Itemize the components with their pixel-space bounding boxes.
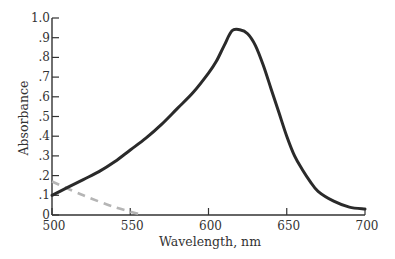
x-axis: 500550600650700 (43, 208, 379, 233)
y-tick-label: .8 (39, 50, 50, 64)
absorbance-spectrum-line (52, 29, 365, 209)
y-tick-label: .6 (39, 90, 50, 104)
baseline-dashed-line (52, 182, 143, 215)
x-axis-label: Wavelength, nm (159, 234, 261, 249)
y-tick-label: .9 (39, 31, 50, 45)
y-tick-label: .5 (39, 110, 50, 124)
absorbance-chart: 0.1.2.3.4.5.6.7.8.91.0 500550600650700 A… (0, 0, 395, 259)
y-tick-label: 1.0 (31, 11, 50, 25)
y-tick-label: .2 (39, 169, 50, 183)
x-tick-label: 600 (199, 219, 222, 233)
series-layer (52, 29, 365, 215)
y-tick-label: .7 (39, 70, 50, 84)
y-axis: 0.1.2.3.4.5.6.7.8.91.0 (31, 11, 59, 222)
y-tick-label: .1 (39, 188, 50, 202)
x-tick-label: 500 (43, 219, 66, 233)
x-tick-label: 700 (356, 219, 379, 233)
x-tick-label: 550 (121, 219, 144, 233)
y-axis-label: Absorbance (16, 81, 31, 157)
x-tick-label: 650 (277, 219, 300, 233)
y-tick-label: .3 (39, 149, 50, 163)
y-tick-label: .4 (39, 129, 51, 143)
